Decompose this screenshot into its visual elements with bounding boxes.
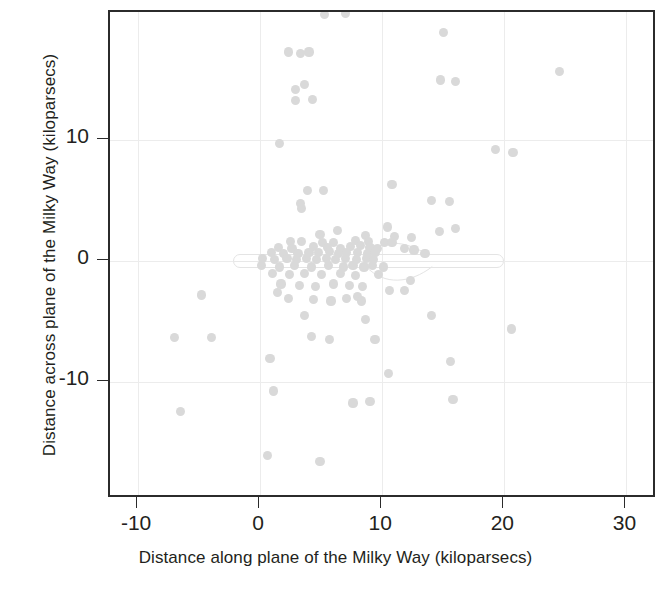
scatter-point: [296, 49, 305, 58]
scatter-point: [207, 333, 216, 342]
scatter-point: [297, 204, 306, 213]
scatter-point: [300, 269, 309, 278]
scatter-point: [284, 294, 293, 303]
x-axis-tick: [502, 497, 503, 508]
scatter-point: [361, 315, 370, 324]
scatter-point: [342, 294, 351, 303]
x-axis-label: Distance along plane of the Milky Way (k…: [0, 548, 671, 568]
x-axis-tick-label: 30: [589, 511, 659, 535]
scatter-point: [435, 227, 444, 236]
scatter-point: [348, 261, 357, 270]
y-axis-tick: [97, 380, 108, 381]
scatter-point: [409, 245, 418, 254]
scatter-point: [265, 354, 274, 363]
scatter-point: [176, 407, 185, 416]
scatter-point: [303, 186, 312, 195]
scatter-point: [291, 96, 300, 105]
scatter-point: [333, 226, 342, 235]
scatter-point: [365, 397, 374, 406]
x-axis-tick-label: 10: [345, 511, 415, 535]
scatter-point: [507, 324, 516, 333]
scatter-point: [307, 332, 316, 341]
scatter-point: [308, 95, 317, 104]
scatter-point: [374, 270, 383, 279]
scatter-point: [269, 386, 278, 395]
scatter-point: [384, 369, 393, 378]
x-axis-tick: [258, 497, 259, 508]
scatter-point: [257, 261, 266, 270]
gridline-horizontal: [110, 382, 653, 383]
plot-area: [108, 10, 655, 497]
x-axis-tick: [136, 497, 137, 508]
scatter-point: [300, 311, 309, 320]
scatter-point: [326, 296, 335, 305]
gridline-vertical: [626, 12, 627, 495]
scatter-point: [427, 311, 436, 320]
x-axis-tick: [624, 497, 625, 508]
gridline-horizontal: [110, 140, 653, 141]
y-axis-label: Distance across plane of the Milky Way (…: [40, 0, 60, 515]
scatter-point: [387, 180, 396, 189]
scatter-point: [291, 85, 300, 94]
scatter-point: [284, 47, 293, 56]
scatter-point: [387, 238, 396, 247]
scatter-point: [420, 249, 429, 258]
scatter-point: [325, 335, 334, 344]
scatter-point: [275, 262, 284, 271]
scatter-point: [445, 197, 454, 206]
scatter-point: [285, 270, 294, 279]
scatter-point: [427, 196, 436, 205]
scatter-point: [300, 80, 309, 89]
scatter-point: [508, 148, 517, 157]
scatter-point: [336, 269, 345, 278]
x-axis-tick-label: 20: [467, 511, 537, 535]
scatter-point: [197, 290, 206, 299]
x-axis-tick: [380, 497, 381, 508]
scatter-point: [368, 261, 377, 270]
scatter-point: [290, 261, 299, 270]
scatter-point: [357, 296, 366, 305]
scatter-point: [275, 139, 284, 148]
scatter-point: [295, 281, 304, 290]
scatter-point: [406, 276, 415, 285]
scatter-point: [407, 233, 416, 242]
scatter-point: [329, 279, 338, 288]
scatter-point: [451, 224, 460, 233]
scatter-point: [341, 10, 350, 18]
scatter-point: [348, 398, 357, 407]
scatter-point: [324, 261, 333, 270]
scatter-point: [383, 222, 392, 231]
scatter-point: [345, 281, 354, 290]
chart-page: -100102030100-10 Distance along plane of…: [0, 0, 671, 589]
scatter-point: [400, 244, 409, 253]
scatter-point: [304, 47, 313, 56]
scatter-point: [317, 270, 326, 279]
scatter-point: [446, 357, 455, 366]
scatter-point: [400, 286, 409, 295]
scatter-point: [268, 269, 277, 278]
y-axis-tick: [97, 259, 108, 260]
scatter-point: [358, 282, 367, 291]
x-axis-tick-label: 0: [223, 511, 293, 535]
scatter-point: [491, 145, 500, 154]
scatter-point: [555, 67, 564, 76]
y-axis-tick: [97, 138, 108, 139]
scatter-point: [315, 457, 324, 466]
scatter-point: [319, 186, 328, 195]
scatter-point: [351, 271, 360, 280]
scatter-point: [451, 77, 460, 86]
scatter-point: [448, 395, 457, 404]
scatter-point: [320, 10, 329, 19]
gridline-vertical: [504, 12, 505, 495]
x-axis-tick-label: -10: [101, 511, 171, 535]
gridline-vertical: [138, 12, 139, 495]
scatter-point: [263, 451, 272, 460]
scatter-point: [439, 28, 448, 37]
scatter-point: [170, 333, 179, 342]
scatter-point: [370, 335, 379, 344]
scatter-point: [311, 282, 320, 291]
scatter-point: [309, 295, 318, 304]
scatter-point: [297, 237, 306, 246]
scatter-point: [436, 75, 445, 84]
scatter-point: [273, 288, 282, 297]
